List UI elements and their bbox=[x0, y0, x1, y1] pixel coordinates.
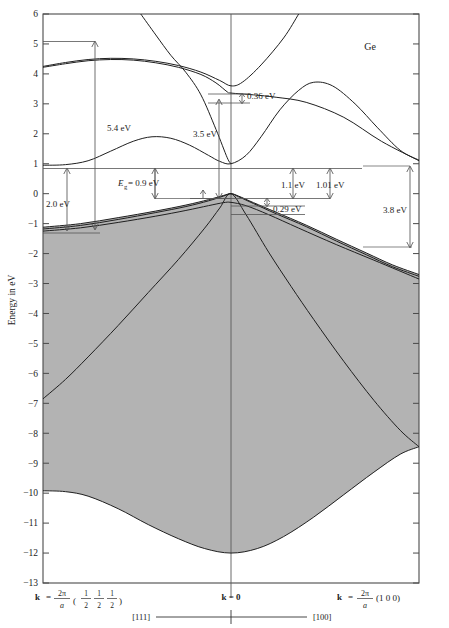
direction-indicator: [111] [100] bbox=[132, 610, 331, 624]
annotation-0p29ev: 0.29 eV bbox=[273, 204, 302, 214]
annotation-3p8ev: 3.8 eV bbox=[383, 205, 407, 215]
k-right-symbol: k bbox=[337, 592, 342, 602]
y-axis-tick-label: −6 bbox=[28, 369, 38, 379]
k-left-denominator: a bbox=[60, 601, 64, 610]
y-axis-tick-label: −12 bbox=[23, 548, 38, 558]
k-left-equals: = bbox=[46, 592, 51, 602]
k-right-equals: = bbox=[348, 592, 353, 602]
k-right-tail: (1 0 0) bbox=[376, 593, 400, 603]
annotation-5p4ev: 5.4 eV bbox=[107, 123, 131, 133]
y-axis-tick-label: −2 bbox=[28, 249, 38, 259]
y-axis-tick-label: −4 bbox=[28, 309, 38, 319]
k-label-left: k = 2π a ( 1 2 1 2 1 2 ) bbox=[35, 589, 122, 610]
k-label-center: k = 0 bbox=[221, 592, 241, 602]
band-curve bbox=[141, 14, 231, 164]
material-label: Ge bbox=[364, 41, 376, 52]
y-axis-tick-label: −5 bbox=[28, 339, 38, 349]
y-axis-tick-label: 4 bbox=[33, 69, 38, 79]
k-left-frac2-den: 2 bbox=[97, 601, 101, 610]
direction-label-111: [111] bbox=[132, 612, 150, 622]
annotation-eg-rest: = 0.9 eV bbox=[128, 178, 160, 188]
k-left-paren-close: ) bbox=[119, 596, 122, 606]
k-label-right: k = 2π a (1 0 0) bbox=[337, 589, 400, 610]
k-left-frac3-den: 2 bbox=[110, 601, 114, 610]
k-left-frac1-num: 1 bbox=[84, 589, 88, 598]
band-curve bbox=[43, 14, 299, 86]
y-axis-tick-label: 0 bbox=[33, 189, 38, 199]
annotation-1p01ev: 1.01 eV bbox=[316, 180, 345, 190]
annotation-2p0ev: 2.0 eV bbox=[46, 199, 70, 209]
k-left-numerator: 2π bbox=[58, 589, 66, 598]
y-axis-tick-label: −1 bbox=[28, 219, 38, 229]
annotation-0p36ev: 0.36 eV bbox=[247, 91, 276, 101]
k-right-denominator: a bbox=[363, 601, 367, 610]
y-axis-tick-label: −11 bbox=[23, 518, 38, 528]
y-axis-tick-label: 2 bbox=[33, 129, 38, 139]
annotation-3p5ev: 3.5 eV bbox=[193, 129, 217, 139]
k-left-frac1-den: 2 bbox=[84, 601, 88, 610]
y-axis-tick-labels: 6543210−1−2−3−4−5−6−7−8−9−10−11−12−13 bbox=[23, 9, 38, 588]
band-structure-figure: 6543210−1−2−3−4−5−6−7−8−9−10−11−12−13 En… bbox=[0, 0, 449, 628]
y-axis-tick-label: −8 bbox=[28, 429, 38, 439]
y-axis-tick-label: −13 bbox=[23, 578, 38, 588]
y-axis-tick-label: 1 bbox=[33, 159, 38, 169]
y-axis-tick-label: 5 bbox=[33, 39, 38, 49]
k-left-paren-open: ( bbox=[73, 596, 76, 606]
annotation-eg-italic: E bbox=[117, 178, 124, 188]
band-structure-plot: 6543210−1−2−3−4−5−6−7−8−9−10−11−12−13 En… bbox=[0, 0, 449, 628]
y-axis-tick-label: 3 bbox=[33, 99, 38, 109]
direction-label-100: [100] bbox=[313, 612, 332, 622]
y-axis-tick-label: 6 bbox=[33, 9, 38, 19]
y-axis-tick-label: −9 bbox=[28, 459, 38, 469]
k-left-frac2-num: 1 bbox=[97, 589, 101, 598]
y-axis-tick-label: −7 bbox=[28, 399, 38, 409]
y-axis-tick-label: −10 bbox=[23, 488, 38, 498]
k-left-frac3-num: 1 bbox=[110, 589, 114, 598]
y-axis-title: Energy in eV bbox=[7, 275, 17, 326]
k-left-symbol: k bbox=[35, 592, 40, 602]
annotation-1p1ev: 1.1 eV bbox=[281, 180, 305, 190]
y-axis-tick-label: −3 bbox=[28, 279, 38, 289]
k-right-numerator: 2π bbox=[361, 589, 369, 598]
